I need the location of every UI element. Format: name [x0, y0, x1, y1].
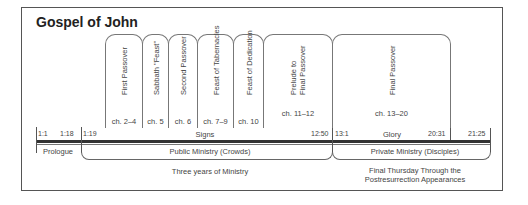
section-glory: Glory — [362, 130, 422, 139]
ref-1-1: 1:1 — [38, 130, 48, 137]
box-prelude-final-passover: Prelude to Final Passover ch. 11–12 — [263, 34, 333, 128]
ref-12-50: 12:50 — [311, 130, 329, 137]
bracket-final-thursday — [332, 152, 491, 160]
box-label: Sabbath "Feast" — [152, 41, 161, 95]
ref-20-31: 20:31 — [428, 130, 446, 137]
tick-prologue-end — [81, 127, 82, 153]
tick-12-50 — [332, 128, 333, 152]
label-postresurrection: Postresurrection Appearances — [345, 175, 485, 184]
timeline-bar — [36, 140, 491, 143]
box-final-passover: Final Passover ch. 13–20 — [332, 34, 451, 128]
tick-start — [36, 127, 37, 153]
box-label: Feast of Dedication — [245, 30, 254, 95]
ref-1-19: 1:19 — [83, 130, 97, 137]
box-chapter: ch. 7–9 — [198, 117, 233, 126]
timeline-bar-underline — [36, 144, 491, 145]
ref-1-18: 1:18 — [60, 130, 74, 137]
box-label: Second Passover — [179, 36, 188, 95]
box-label: Prelude to — [289, 61, 298, 95]
box-feast-tabernacles: Feast of Tabernacles ch. 7–9 — [197, 34, 234, 128]
box-label-2: Final Passover — [298, 45, 307, 95]
box-second-passover: Second Passover ch. 6 — [168, 34, 198, 128]
section-signs: Signs — [175, 130, 235, 139]
box-chapter: ch. 13–20 — [333, 109, 450, 118]
bracket-three-years — [81, 152, 333, 160]
box-first-passover: First Passover ch. 2–4 — [105, 34, 143, 128]
box-feast-dedication: Feast of Dedication ch. 10 — [233, 34, 264, 128]
box-chapter: ch. 10 — [234, 117, 263, 126]
box-label: Feast of Tabernacles — [212, 26, 221, 96]
box-chapter: ch. 5 — [143, 117, 168, 126]
tick-20-31 — [450, 128, 451, 140]
box-label: Final Passover — [388, 45, 397, 95]
box-label: First Passover — [120, 47, 129, 95]
ref-13-1: 13:1 — [335, 130, 349, 137]
box-chapter: ch. 6 — [169, 117, 197, 126]
ref-21-25: 21:25 — [468, 130, 486, 137]
diagram-title: Gospel of John — [36, 14, 138, 30]
tick-end — [490, 128, 491, 152]
box-chapter: ch. 2–4 — [106, 117, 142, 126]
box-chapter: ch. 11–12 — [264, 109, 332, 118]
label-three-years: Three years of Ministry — [140, 167, 280, 176]
label-final-thursday: Final Thursday Through the — [345, 166, 485, 175]
section-prologue: Prologue — [43, 147, 73, 156]
box-sabbath-feast: Sabbath "Feast" ch. 5 — [142, 34, 169, 128]
